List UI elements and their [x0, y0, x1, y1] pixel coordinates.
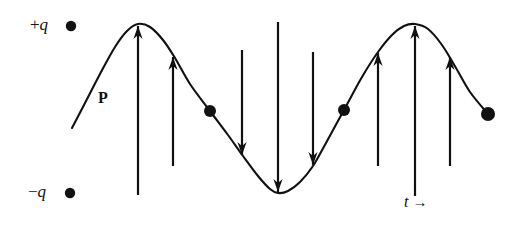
zero-crossing-dot-2: [338, 104, 350, 116]
arrow-down-2: [273, 22, 282, 192]
arrow-up-2: [168, 57, 177, 166]
field-arrow-group: [133, 22, 454, 196]
sine-wave-curve: [72, 24, 488, 193]
negative-charge-dot: [65, 188, 75, 198]
right-arrow-icon: →: [408, 194, 427, 210]
arrow-up-5: [445, 57, 454, 166]
polarization-wave-figure: +q −q P t→: [0, 0, 526, 241]
positive-charge-symbol: q: [40, 15, 49, 34]
negative-sign: −: [28, 182, 38, 201]
charge-dot-group: [65, 21, 76, 198]
positive-charge-label: +q: [30, 16, 48, 33]
curve-end-dot: [481, 107, 495, 121]
arrow-up-1: [133, 26, 142, 195]
curve-marker-group: [204, 104, 495, 121]
arrow-up-3: [373, 53, 382, 166]
negative-charge-symbol: q: [38, 182, 47, 201]
arrow-down-3: [308, 52, 317, 165]
positive-charge-dot: [66, 21, 76, 31]
time-axis-label: t→: [404, 194, 427, 210]
arrow-down-1: [237, 50, 246, 155]
positive-sign: +: [30, 15, 40, 34]
negative-charge-label: −q: [28, 183, 46, 200]
wave-diagram-svg: [0, 0, 526, 241]
arrow-up-4: [410, 26, 419, 196]
zero-crossing-dot-1: [204, 105, 216, 117]
polarization-vector-label: P: [98, 90, 108, 106]
